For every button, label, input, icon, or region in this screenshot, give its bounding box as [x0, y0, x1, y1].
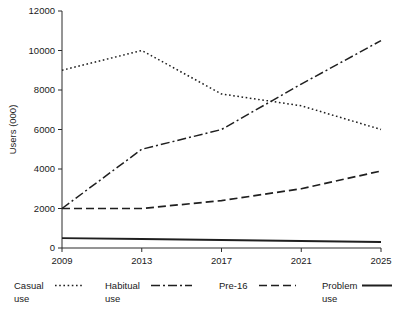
- legend-item: Pre-16: [219, 280, 296, 291]
- chart-legend: CasualuseHabitualusePre-16Problemuse: [14, 280, 392, 304]
- y-axis-tick-label: 0: [50, 242, 55, 253]
- x-axis-tick-label: 2013: [131, 255, 152, 266]
- legend-item: Problemuse: [322, 280, 392, 304]
- y-axis-title: Users (000): [7, 105, 18, 155]
- series-line-problem-use: [62, 238, 381, 242]
- x-axis-tick-label: 2009: [51, 255, 72, 266]
- legend-label-line1: Pre-16: [219, 280, 248, 291]
- legend-label-line2: use: [105, 293, 120, 304]
- y-axis-tick-label: 12000: [29, 5, 55, 16]
- y-axis-tick-label: 2000: [34, 203, 55, 214]
- y-axis-tick-label: 10000: [29, 45, 55, 56]
- y-axis-tick-label: 8000: [34, 84, 55, 95]
- line-chart: 0200040006000800010000120002009201320172…: [0, 0, 398, 318]
- series-line-pre-16: [62, 171, 381, 209]
- series-line-habitual-use: [62, 41, 381, 209]
- legend-item: Habitualuse: [105, 280, 192, 304]
- legend-label-line2: use: [322, 293, 337, 304]
- x-axis-tick-label: 2021: [291, 255, 312, 266]
- legend-label-line1: Problem: [322, 280, 357, 291]
- series-line-casual-use: [62, 51, 381, 130]
- x-axis-tick-label: 2017: [211, 255, 232, 266]
- legend-item: Casualuse: [14, 280, 83, 304]
- data-series-group: [62, 41, 381, 242]
- chart-canvas: 0200040006000800010000120002009201320172…: [0, 0, 398, 318]
- legend-label-line1: Casual: [14, 280, 44, 291]
- legend-label-line1: Habitual: [105, 280, 140, 291]
- x-axis-tick-label: 2025: [370, 255, 391, 266]
- y-axis-tick-label: 6000: [34, 124, 55, 135]
- legend-label-line2: use: [14, 293, 29, 304]
- y-axis-tick-label: 4000: [34, 163, 55, 174]
